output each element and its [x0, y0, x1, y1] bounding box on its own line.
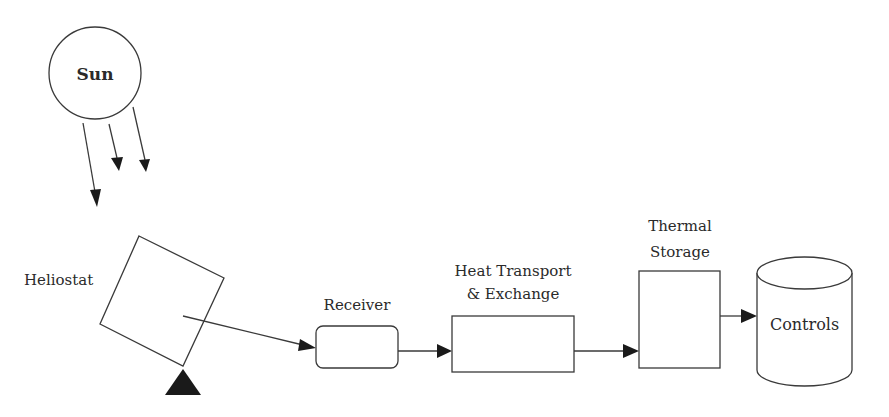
heliostat-label: Heliostat — [24, 271, 93, 289]
sun-rays — [83, 107, 150, 207]
sun-label: Sun — [77, 64, 114, 84]
arrowhead-icon — [623, 344, 639, 358]
heat-exchange-label-line1: Heat Transport — [454, 262, 571, 280]
controls-label: Controls — [770, 315, 839, 334]
heliostat-node: Heliostat — [24, 236, 224, 395]
receiver-node: Receiver — [316, 296, 398, 368]
controls-node: Controls — [757, 257, 852, 386]
arrowhead-icon — [90, 189, 101, 207]
arrowhead-icon — [437, 344, 452, 358]
ray-1 — [83, 123, 95, 192]
heliostat-base-triangle-icon — [165, 369, 201, 395]
controls-cylinder-top — [757, 257, 852, 289]
receiver-label: Receiver — [324, 296, 392, 314]
heat-exchange-label-line2: & Exchange — [467, 285, 560, 303]
arrowhead-icon — [298, 339, 316, 351]
heliostat-mirror — [100, 236, 224, 366]
reflected-beam — [183, 316, 303, 345]
heat-exchange-node: Heat Transport & Exchange — [452, 262, 574, 372]
arrowhead-icon — [111, 157, 123, 171]
arrowhead-icon — [741, 309, 757, 323]
thermal-storage-label-line1: Thermal — [648, 217, 712, 235]
sun-node: Sun — [49, 27, 141, 119]
thermal-storage-box — [639, 271, 720, 368]
diagram-canvas: Sun Heliostat Receiver Heat Transport & … — [0, 0, 889, 417]
heat-exchange-box — [452, 316, 574, 372]
ray-3 — [133, 107, 145, 160]
thermal-storage-node: Thermal Storage — [639, 217, 720, 368]
receiver-box — [316, 326, 398, 368]
thermal-storage-label-line2: Storage — [650, 243, 710, 261]
ray-2 — [109, 124, 117, 158]
arrowhead-icon — [139, 159, 150, 172]
